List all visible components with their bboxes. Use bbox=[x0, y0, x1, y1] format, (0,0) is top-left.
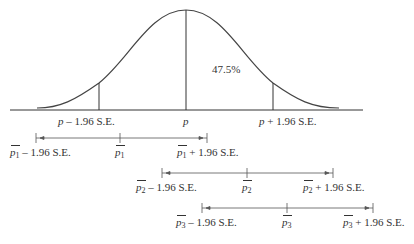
interval-2 bbox=[162, 168, 333, 178]
interval-3-upper-label: p3 + 1.96 S.E. bbox=[343, 217, 405, 230]
area-label: 47.5% bbox=[212, 64, 240, 75]
interval-1 bbox=[36, 133, 207, 143]
interval-1-lower-label: p1 – 1.96 S.E. bbox=[10, 147, 71, 160]
interval-1-upper-label: p1 + 1.96 S.E. bbox=[177, 147, 239, 160]
lower-bound-text: – 1.96 S.E. bbox=[64, 115, 115, 127]
mean-label: p bbox=[183, 116, 189, 127]
lower-bound-label: p – 1.96 S.E. bbox=[58, 116, 115, 127]
normal-curve bbox=[37, 10, 339, 108]
interval-1-center-label: p1 bbox=[115, 147, 125, 160]
upper-bound-text: + 1.96 S.E. bbox=[265, 115, 317, 127]
interval-2-lower-label: p2 – 1.96 S.E. bbox=[136, 182, 197, 195]
interval-3 bbox=[202, 203, 373, 213]
interval-3-lower-label: p3 – 1.96 S.E. bbox=[176, 217, 237, 230]
interval-2-upper-label: p2 + 1.96 S.E. bbox=[303, 182, 365, 195]
upper-bound-label: p + 1.96 S.E. bbox=[259, 116, 317, 127]
interval-3-center-label: p3 bbox=[282, 217, 292, 230]
interval-2-center-label: p2 bbox=[242, 182, 252, 195]
